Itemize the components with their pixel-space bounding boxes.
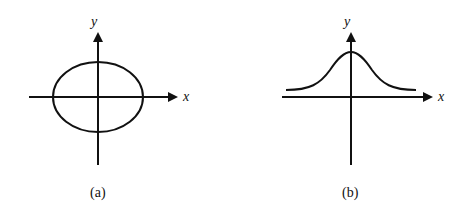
figure-canvas — [0, 0, 464, 213]
panel-a-y-label: y — [91, 15, 97, 29]
panel-a-x-label: x — [183, 90, 189, 104]
panel-a-graph — [29, 34, 176, 165]
panel-b-caption: (b) — [342, 186, 358, 200]
panel-b-graph — [282, 34, 431, 165]
panel-b-x-label: x — [438, 90, 444, 104]
panel-b-y-label: y — [344, 15, 350, 29]
panel-a-caption: (a) — [90, 186, 106, 200]
